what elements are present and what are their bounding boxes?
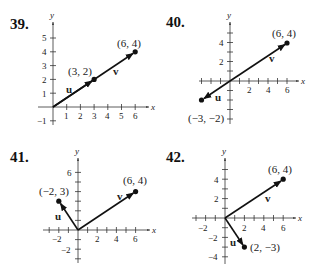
point-label: (6, 4)	[272, 27, 296, 40]
x-tick: 4	[105, 111, 110, 121]
y-tick: 4	[214, 175, 219, 185]
y-tick: 2	[42, 75, 47, 85]
point-label: (−3, −2)	[188, 112, 225, 125]
point-label: (3, 2)	[68, 65, 92, 78]
point-label: (6, 4)	[123, 174, 147, 187]
graph-40: x y 2 4 6 4 2 (6, 4) (−3, −2) u v	[160, 0, 319, 136]
x-tick: 2	[95, 234, 100, 244]
x-axis-label: x	[297, 213, 302, 223]
x-tick: 1	[64, 111, 69, 121]
x-axis-label: x	[151, 225, 156, 235]
vector-v-label: v	[117, 190, 123, 202]
point-dot	[133, 49, 138, 54]
point-dot	[284, 40, 289, 45]
x-tick: 6	[285, 85, 290, 95]
vector-v-label: v	[265, 192, 271, 204]
y-tick: −2	[61, 245, 71, 255]
x-tick: −2	[52, 234, 62, 244]
y-tick: 2	[214, 194, 219, 204]
point-label: (6, 4)	[117, 37, 141, 50]
x-tick: 3	[92, 111, 97, 121]
vector-v	[78, 193, 134, 230]
x-axis-label: x	[150, 102, 155, 112]
graph-41: x y −2 2 4 6 6 −2 (6, 4) (−2, 3) u v	[0, 136, 160, 272]
y-tick: 4	[219, 38, 224, 48]
y-tick: 3	[42, 61, 47, 71]
point-label: (2, −3)	[250, 241, 280, 254]
vector-v-label: v	[269, 52, 275, 64]
point-dot	[242, 245, 247, 250]
y-tick: 1	[42, 89, 47, 99]
problem-42: 42. x y −2 2 4 6 4 2 −2 −4 (6, 4) (2, −3…	[160, 136, 319, 272]
x-axis-label: x	[300, 76, 305, 86]
x-tick: 5	[119, 111, 124, 121]
x-tick: 6	[133, 234, 138, 244]
y-tick: 6	[67, 168, 72, 178]
point-label: (−2, 3)	[39, 185, 69, 198]
vector-u-label: u	[55, 210, 61, 222]
vector-v-label: v	[113, 65, 119, 77]
problem-39: 39. x y 1 2 3 4 5 6 5 4 3 2 1 −1 (3, 2) …	[0, 0, 160, 136]
graph-42: x y −2 2 4 6 4 2 −2 −4 (6, 4) (2, −3) u …	[160, 136, 319, 272]
vector-u-label: u	[230, 236, 236, 248]
y-tick: −2	[208, 233, 218, 243]
vector-v	[230, 45, 285, 82]
vector-u	[53, 81, 92, 107]
y-tick: 5	[42, 33, 47, 43]
x-tick: 6	[281, 223, 286, 233]
point-dot	[92, 77, 97, 82]
point-dot	[281, 177, 286, 182]
y-axis-label: y	[221, 146, 226, 156]
x-tick: 2	[247, 85, 252, 95]
vector-u-label: u	[215, 91, 221, 103]
y-tick: 4	[42, 47, 47, 57]
x-tick: 4	[261, 223, 266, 233]
y-tick: −1	[37, 116, 47, 126]
vector-u	[61, 204, 79, 231]
point-dot	[199, 97, 204, 102]
vector-v	[225, 181, 281, 218]
problem-40: 40. x y 2 4 6 4 2 (6, 4) (−3, −2) u v	[160, 0, 319, 136]
vector-u-label: u	[66, 83, 72, 95]
graph-39: x y 1 2 3 4 5 6 5 4 3 2 1 −1 (3, 2) (6, …	[0, 0, 160, 136]
point-dot	[56, 199, 61, 204]
y-tick: −4	[208, 252, 218, 262]
y-axis-label: y	[49, 10, 54, 20]
x-tick: 4	[114, 234, 119, 244]
point-label: (6, 4)	[268, 163, 292, 176]
x-tick: 6	[133, 111, 138, 121]
x-tick: 2	[78, 111, 83, 121]
y-axis-label: y	[226, 10, 231, 20]
problem-41: 41. x y −2 2 4 6 6 −2 (6, 4) (−2, 3) u v	[0, 136, 160, 272]
x-tick: −2	[198, 223, 208, 233]
point-dot	[133, 189, 138, 194]
x-tick: 4	[266, 85, 271, 95]
x-tick: 2	[242, 223, 247, 233]
y-tick: 2	[219, 57, 224, 67]
y-axis-label: y	[74, 146, 79, 156]
